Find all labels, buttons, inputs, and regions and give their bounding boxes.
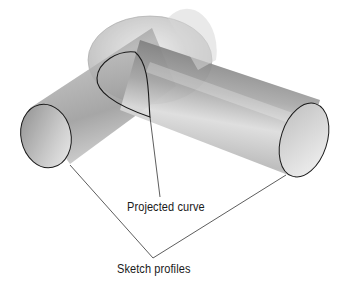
sketch-profiles-label: Sketch profiles [117,262,190,276]
sketch-profile-leader-right [153,175,286,258]
sweep-diagram [0,0,345,286]
projected-curve-label: Projected curve [127,200,205,214]
projected-curve-leader [150,117,160,197]
